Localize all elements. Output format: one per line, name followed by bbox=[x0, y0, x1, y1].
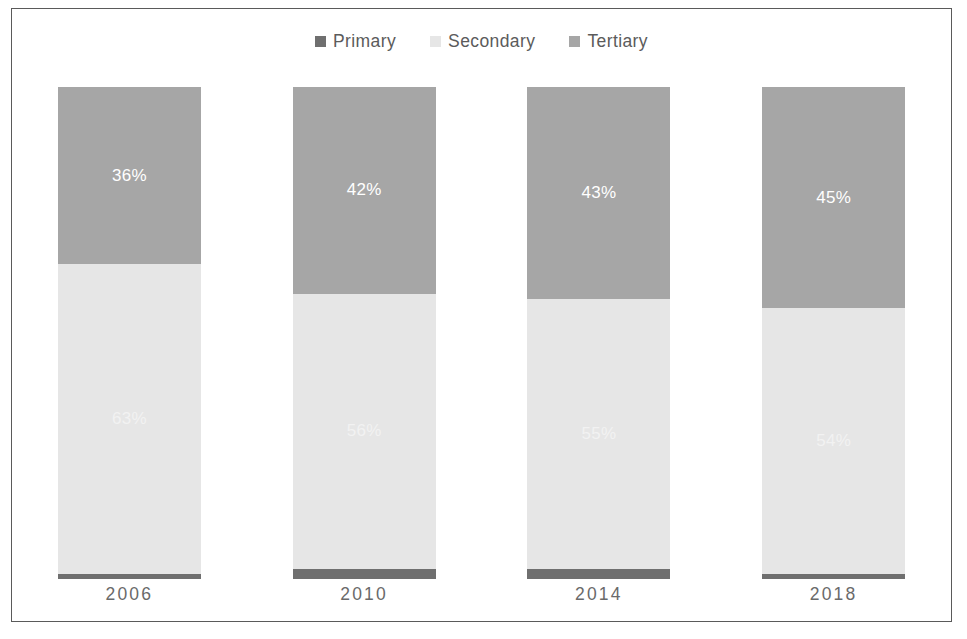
axis-tick-label: 2010 bbox=[256, 584, 472, 605]
segment-label-tertiary: 36% bbox=[112, 166, 147, 186]
legend-swatch-tertiary bbox=[569, 36, 580, 47]
legend-item-primary[interactable]: Primary bbox=[315, 31, 396, 52]
bar-group-2018: 45% 54% bbox=[726, 87, 942, 579]
segment-label-tertiary: 45% bbox=[816, 188, 851, 208]
plot-area: 36% 63% 42% 56% bbox=[12, 87, 951, 579]
legend-label-primary: Primary bbox=[333, 31, 396, 52]
legend-label-secondary: Secondary bbox=[448, 31, 535, 52]
legend-item-tertiary[interactable]: Tertiary bbox=[569, 31, 648, 52]
segment-label-tertiary: 42% bbox=[347, 180, 382, 200]
stacked-bar[interactable]: 36% 63% bbox=[58, 87, 201, 579]
segment-primary[interactable] bbox=[293, 569, 436, 579]
axis-tick-label: 2006 bbox=[21, 584, 237, 605]
chart-legend: Primary Secondary Tertiary bbox=[12, 31, 951, 52]
segment-secondary[interactable]: 63% bbox=[58, 264, 201, 574]
segment-primary[interactable] bbox=[527, 569, 670, 579]
legend-swatch-secondary bbox=[430, 36, 441, 47]
legend-item-secondary[interactable]: Secondary bbox=[430, 31, 535, 52]
bar-group-2006: 36% 63% bbox=[21, 87, 237, 579]
segment-primary[interactable] bbox=[762, 574, 905, 579]
segment-primary[interactable] bbox=[58, 574, 201, 579]
bar-group-2014: 43% 55% bbox=[491, 87, 707, 579]
segment-label-tertiary: 43% bbox=[581, 183, 616, 203]
bar-group-2010: 42% 56% bbox=[256, 87, 472, 579]
segment-tertiary[interactable]: 45% bbox=[762, 87, 905, 308]
chart-frame: Primary Secondary Tertiary 36% 63% bbox=[11, 8, 952, 622]
stacked-bar[interactable]: 43% 55% bbox=[527, 87, 670, 579]
segment-tertiary[interactable]: 42% bbox=[293, 87, 436, 294]
segment-tertiary[interactable]: 36% bbox=[58, 87, 201, 264]
segment-label-secondary: 55% bbox=[581, 424, 616, 444]
segment-label-secondary: 63% bbox=[112, 409, 147, 429]
stacked-bar[interactable]: 45% 54% bbox=[762, 87, 905, 579]
category-axis: 2006 2010 2014 2018 bbox=[12, 584, 951, 605]
segment-tertiary[interactable]: 43% bbox=[527, 87, 670, 299]
segment-secondary[interactable]: 54% bbox=[762, 308, 905, 574]
legend-swatch-primary bbox=[315, 36, 326, 47]
legend-label-tertiary: Tertiary bbox=[587, 31, 648, 52]
axis-tick-label: 2014 bbox=[491, 584, 707, 605]
axis-tick-label: 2018 bbox=[726, 584, 942, 605]
segment-secondary[interactable]: 56% bbox=[293, 294, 436, 570]
stacked-bar[interactable]: 42% 56% bbox=[293, 87, 436, 579]
segment-label-secondary: 54% bbox=[816, 431, 851, 451]
segment-secondary[interactable]: 55% bbox=[527, 299, 670, 570]
segment-label-secondary: 56% bbox=[347, 421, 382, 441]
